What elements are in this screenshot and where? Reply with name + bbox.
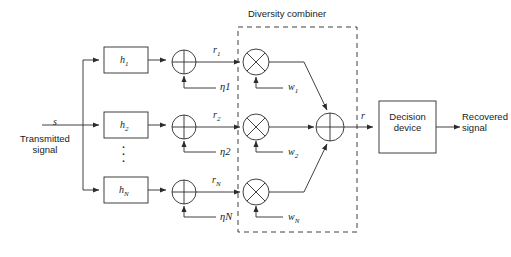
ellipsis-dot: · <box>121 156 126 163</box>
channel-block-label-1: h1 <box>120 54 129 68</box>
weight-label-n: wN <box>288 211 299 225</box>
received-signal-label-n: rN <box>212 174 221 188</box>
weight-label-2: w2 <box>288 146 298 160</box>
source-trunk-line <box>42 60 83 190</box>
recovered-signal-caption: Recovered signal <box>462 112 510 134</box>
transmitted-signal-caption: Transmitted signal <box>6 134 84 156</box>
branch-2-wires <box>83 112 314 152</box>
received-signal-label-1: r1 <box>213 44 220 58</box>
recovered-signal-line2: signal <box>462 123 510 134</box>
diversity-combiner-title: Diversity combiner <box>248 9 326 20</box>
channel-block-label-n: hN <box>119 184 129 198</box>
decision-device-line2: device <box>379 123 436 134</box>
channel-block-label-2: h2 <box>120 119 129 133</box>
noise-label-n: ηN <box>220 211 232 223</box>
transmitted-signal-line2: signal <box>6 145 84 156</box>
received-signal-label-2: r2 <box>213 109 220 123</box>
figure-canvas: s Transmitted signal · · · h1 r1 η1 w1 h… <box>0 0 511 257</box>
combiner-summing-junction <box>316 113 344 141</box>
noise-label-1: η1 <box>220 81 230 93</box>
combiner-output-label: r <box>361 110 365 122</box>
decision-device-label: Decision device <box>379 112 436 134</box>
source-signal-symbol: s <box>53 116 57 128</box>
noise-label-2: η2 <box>220 146 230 158</box>
weight-label-1: w1 <box>288 81 298 95</box>
branch-ellipsis-dots: · · · <box>121 142 126 163</box>
